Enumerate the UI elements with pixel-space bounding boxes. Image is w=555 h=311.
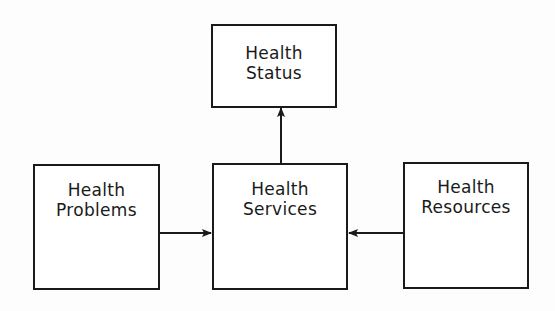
node-health-resources: Health Resources: [403, 162, 529, 289]
node-health-problems-line2: Problems: [35, 200, 158, 220]
node-health-status-line2: Status: [213, 63, 335, 83]
node-health-problems-line1: Health: [35, 180, 158, 200]
node-health-problems: Health Problems: [33, 164, 160, 290]
node-health-services: Health Services: [212, 163, 348, 290]
node-health-resources-line1: Health: [405, 177, 527, 197]
node-health-services-line1: Health: [214, 179, 346, 199]
diagram-canvas: Health Status Health Problems Health Ser…: [0, 0, 555, 311]
node-health-status: Health Status: [211, 24, 337, 108]
node-health-resources-line2: Resources: [405, 197, 527, 217]
node-health-services-line2: Services: [214, 199, 346, 219]
node-health-status-line1: Health: [213, 43, 335, 63]
